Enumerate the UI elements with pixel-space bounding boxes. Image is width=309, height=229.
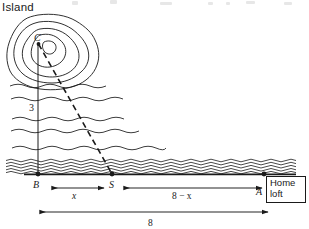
home-loft-box: Home loft	[266, 176, 306, 203]
island-contours	[7, 14, 99, 89]
scan-artifacts	[72, 0, 292, 5]
perpendicular-length-label: 3	[29, 103, 34, 113]
home-loft-label-line2: loft	[270, 189, 303, 200]
point-b-label: B	[33, 180, 39, 190]
wave-line	[6, 159, 296, 162]
point-a-label: A	[256, 187, 262, 197]
point-b-dot	[36, 172, 41, 177]
point-s-label: S	[109, 180, 114, 190]
island-label: Island	[2, 2, 34, 14]
island-diagram-figure: Island C 3 B S A x 8 − x 8 Home loft	[0, 0, 309, 229]
water-waves-sparse	[10, 84, 166, 150]
wave-line	[6, 165, 296, 168]
island-peak-notch	[43, 41, 57, 54]
wave-line	[12, 117, 124, 121]
wave-line	[6, 171, 296, 173]
vertex-dots	[36, 42, 267, 176]
segment-sa-length-label: 8 − x	[172, 192, 192, 202]
point-s-dot	[110, 172, 115, 177]
water-waves-dense	[6, 159, 296, 174]
wave-line	[11, 97, 123, 101]
point-c-label: C	[34, 33, 41, 43]
island-contour-ring-4	[7, 14, 99, 89]
segment-c-to-s	[39, 44, 113, 174]
diagram-canvas	[0, 0, 309, 229]
wave-line	[12, 146, 166, 150]
wave-line	[6, 169, 296, 172]
wave-line	[6, 162, 296, 165]
wave-line	[11, 129, 139, 133]
island-contour-ring-3	[14, 21, 89, 83]
segment-ba-length-label: 8	[148, 219, 153, 229]
segment-bs-length-label: x	[72, 192, 76, 202]
